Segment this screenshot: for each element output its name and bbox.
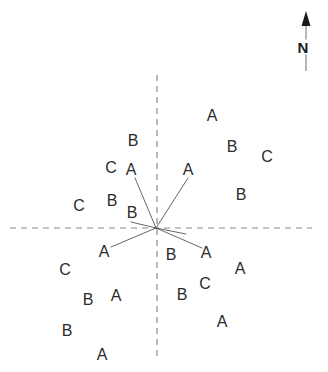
- point-label-a: A: [126, 162, 137, 178]
- point-label-b: B: [83, 292, 94, 308]
- diagram-vector-layer: [0, 0, 328, 372]
- point-label-a: A: [99, 244, 110, 260]
- point-label-c: C: [59, 262, 71, 278]
- ray-lower-left: [111, 228, 156, 247]
- point-label-c: C: [199, 276, 211, 292]
- point-label-b: B: [166, 247, 177, 263]
- point-label-b: B: [107, 193, 118, 209]
- point-label-c: C: [261, 149, 273, 165]
- ray-upper-right: [156, 178, 188, 228]
- ray-lower-right: [156, 228, 202, 248]
- point-label-b: B: [127, 205, 138, 221]
- north-label: N: [297, 40, 310, 55]
- point-label-a: A: [183, 162, 194, 178]
- dashed-axes-group: [10, 75, 312, 356]
- point-label-c: C: [73, 198, 85, 214]
- point-label-a: A: [111, 288, 122, 304]
- point-label-b: B: [236, 187, 247, 203]
- north-arrow-head: [302, 11, 311, 26]
- point-label-c: C: [105, 160, 117, 176]
- point-label-a: A: [217, 314, 228, 330]
- ray-upper-left: [135, 178, 156, 228]
- point-label-b: B: [227, 139, 238, 155]
- point-label-a: A: [97, 347, 108, 363]
- point-label-b: B: [128, 133, 139, 149]
- point-label-a: A: [207, 108, 218, 124]
- point-label-b: B: [177, 287, 188, 303]
- ray-west-stub: [131, 222, 156, 228]
- diagram-canvas: BCABCBABCABACABBABAACBA N: [0, 0, 328, 372]
- point-label-b: B: [62, 323, 73, 339]
- point-label-a: A: [201, 245, 212, 261]
- point-label-a: A: [235, 261, 246, 277]
- ray-east-stub: [156, 228, 186, 234]
